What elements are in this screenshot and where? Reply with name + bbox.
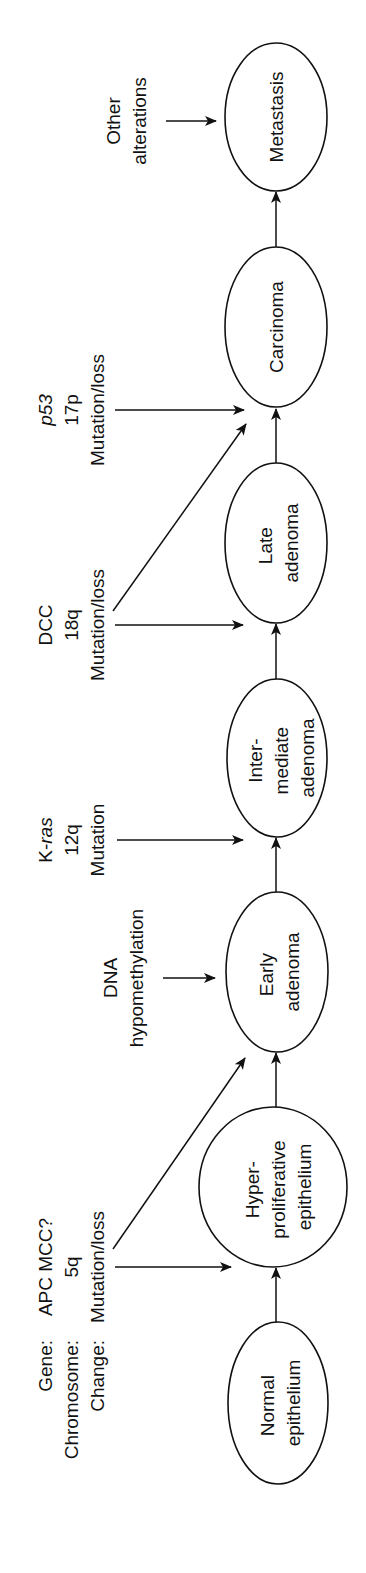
kras-chromosome: 12q xyxy=(61,824,82,856)
alteration-dna-hypomethylation: DNA hypomethylation xyxy=(100,909,147,1047)
alteration-dcc: DCC 18q Mutation/loss xyxy=(35,569,108,681)
row-header-gene: Gene: xyxy=(35,1340,56,1392)
stage-normal: Normal epithelium xyxy=(228,1322,328,1484)
apc-gene: APC MCC? xyxy=(35,1218,56,1316)
row-headers: Gene: Chromosome: Change: xyxy=(35,1340,108,1459)
kras-gene: K-ras xyxy=(35,817,56,863)
alteration-p53: p53 17p Mutation/loss xyxy=(35,354,108,466)
stage-metastasis-label: Metastasis xyxy=(266,72,287,163)
stage-late-adenoma-shape xyxy=(225,463,327,623)
apc-chromosome: 5q xyxy=(61,1256,82,1277)
alteration-other: Other alterations xyxy=(103,77,150,165)
colorectal-tumorigenesis-diagram: Gene: Chromosome: Change: Normal epithel… xyxy=(0,0,366,1573)
dcc-chromosome: 18q xyxy=(61,609,82,641)
p53-change: Mutation/loss xyxy=(87,354,108,466)
stage-carcinoma-label: Carcinoma xyxy=(266,281,287,373)
other-line-1: Other xyxy=(103,97,124,145)
stage-hyperproliferative: Hyper- proliferative epithelium xyxy=(199,1107,347,1267)
p53-gene: p53 xyxy=(35,394,56,427)
dcc-gene: DCC xyxy=(35,604,56,645)
dna-line-1: DNA xyxy=(100,958,121,998)
stage-early-adenoma: Early adenoma xyxy=(226,892,328,1052)
alteration-arrows xyxy=(113,121,246,1267)
alteration-apc: APC MCC? 5q Mutation/loss xyxy=(35,1211,108,1323)
row-header-chromosome: Chromosome: xyxy=(61,1340,82,1459)
stage-early-adenoma-shape xyxy=(226,892,328,1052)
p53-chromosome: 17p xyxy=(61,394,82,426)
alteration-kras: K-ras 12q Mutation xyxy=(35,804,108,877)
other-line-2: alterations xyxy=(129,77,150,165)
stage-carcinoma: Carcinoma xyxy=(225,247,327,407)
stage-metastasis: Metastasis xyxy=(225,43,327,191)
kras-change: Mutation xyxy=(87,804,108,877)
row-header-change: Change: xyxy=(87,1340,108,1412)
dna-line-2: hypomethylation xyxy=(126,909,147,1047)
dcc-change: Mutation/loss xyxy=(87,569,108,681)
stage-late-adenoma: Late adenoma xyxy=(225,463,327,623)
arrow-dcc-to-carcinoma xyxy=(113,424,246,611)
apc-change: Mutation/loss xyxy=(87,1211,108,1323)
stage-intermediate-adenoma: Inter- mediate adenoma xyxy=(227,679,327,837)
stage-normal-shape xyxy=(228,1322,328,1484)
